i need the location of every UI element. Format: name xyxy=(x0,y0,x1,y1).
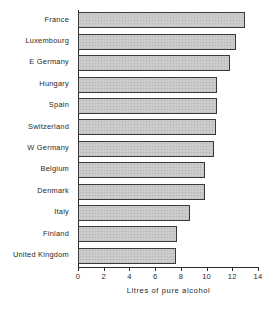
category-label: Spain xyxy=(0,100,74,109)
category-axis-labels: FranceLuxembourgE GermanyHungarySpainSwi… xyxy=(0,10,74,267)
bar-chart: FranceLuxembourgE GermanyHungarySpainSwi… xyxy=(0,0,274,313)
bar-row xyxy=(78,53,258,74)
bar xyxy=(78,55,230,71)
bar-row xyxy=(78,31,258,52)
category-label: Belgium xyxy=(0,164,74,173)
bar-row xyxy=(78,74,258,95)
bar xyxy=(78,98,217,114)
bar xyxy=(78,184,205,200)
category-label: Switzerland xyxy=(0,122,74,131)
bar xyxy=(78,119,216,135)
category-label: W Germany xyxy=(0,143,74,152)
bar xyxy=(78,77,217,93)
x-tick-mark xyxy=(104,267,105,271)
x-tick-label: 12 xyxy=(228,272,237,281)
bar-row xyxy=(78,181,258,202)
bar xyxy=(78,34,236,50)
bar xyxy=(78,162,205,178)
x-tick-label: 8 xyxy=(179,272,183,281)
x-axis-ticks: 02468101214 xyxy=(78,267,259,285)
plot-area xyxy=(78,10,258,267)
bar-row xyxy=(78,117,258,138)
x-tick-label: 0 xyxy=(76,272,80,281)
x-tick-label: 10 xyxy=(202,272,211,281)
bar-row xyxy=(78,96,258,117)
x-tick-label: 6 xyxy=(153,272,157,281)
x-axis-title: Litres of pure alcohol xyxy=(78,286,259,295)
bar-series xyxy=(78,10,258,267)
category-label: United Kingdom xyxy=(0,250,74,259)
bar-row xyxy=(78,139,258,160)
x-tick-mark xyxy=(129,267,130,271)
bar xyxy=(78,141,214,157)
x-tick-label: 4 xyxy=(127,272,131,281)
bar xyxy=(78,12,245,28)
category-label: E Germany xyxy=(0,57,74,66)
x-tick-mark xyxy=(207,267,208,271)
category-label: Denmark xyxy=(0,186,74,195)
category-label: Luxembourg xyxy=(0,36,74,45)
bar xyxy=(78,205,190,221)
bar xyxy=(78,248,176,264)
bar-row xyxy=(78,10,258,31)
x-tick-mark xyxy=(78,267,79,271)
bar-row xyxy=(78,160,258,181)
bar-row xyxy=(78,224,258,245)
bar-row xyxy=(78,203,258,224)
x-tick-label: 2 xyxy=(101,272,105,281)
bar-row xyxy=(78,246,258,267)
bar xyxy=(78,226,177,242)
x-tick-label: 14 xyxy=(254,272,263,281)
x-tick-mark xyxy=(232,267,233,271)
x-tick-mark xyxy=(258,267,259,271)
category-label: France xyxy=(0,15,74,24)
category-label: Italy xyxy=(0,207,74,216)
category-label: Hungary xyxy=(0,79,74,88)
x-tick-mark xyxy=(181,267,182,271)
x-tick-mark xyxy=(155,267,156,271)
category-label: Finland xyxy=(0,229,74,238)
